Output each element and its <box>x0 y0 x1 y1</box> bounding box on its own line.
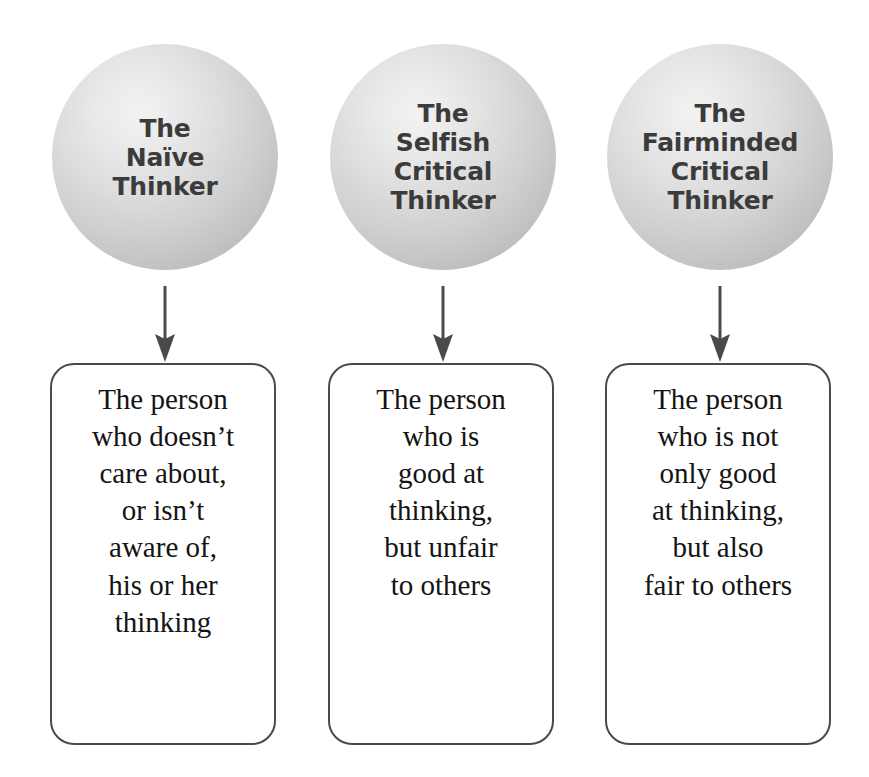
circle-node-fairminded-critical-thinker: The Fairminded Critical Thinker <box>607 44 833 270</box>
description-text-selfish-critical-thinker: The person who is good at thinking, but … <box>364 365 518 604</box>
down-arrow-icon-fairminded-critical-thinker <box>581 286 859 364</box>
thinker-types-diagram: The Naïve Thinker The person who doesn’t… <box>0 0 869 777</box>
description-box-fairminded-critical-thinker: The person who is not only good at think… <box>605 363 831 745</box>
circle-node-naive-thinker: The Naïve Thinker <box>52 44 278 270</box>
circle-label-fairminded-critical-thinker: The Fairminded Critical Thinker <box>634 99 807 215</box>
down-arrow-icon-naive-thinker <box>26 286 304 364</box>
diagram-column-selfish-critical-thinker: The Selfish Critical Thinker The person … <box>304 0 582 777</box>
diagram-column-naive-thinker: The Naïve Thinker The person who doesn’t… <box>26 0 304 777</box>
description-text-naive-thinker: The person who doesn’t care about, or is… <box>80 365 246 641</box>
description-box-naive-thinker: The person who doesn’t care about, or is… <box>50 363 276 745</box>
down-arrow-icon-selfish-critical-thinker <box>304 286 582 364</box>
circle-node-selfish-critical-thinker: The Selfish Critical Thinker <box>330 44 556 270</box>
description-text-fairminded-critical-thinker: The person who is not only good at think… <box>632 365 804 604</box>
circle-label-naive-thinker: The Naïve Thinker <box>104 114 225 201</box>
description-box-selfish-critical-thinker: The person who is good at thinking, but … <box>328 363 554 745</box>
circle-label-selfish-critical-thinker: The Selfish Critical Thinker <box>382 99 503 215</box>
diagram-column-fairminded-critical-thinker: The Fairminded Critical Thinker The pers… <box>581 0 859 777</box>
